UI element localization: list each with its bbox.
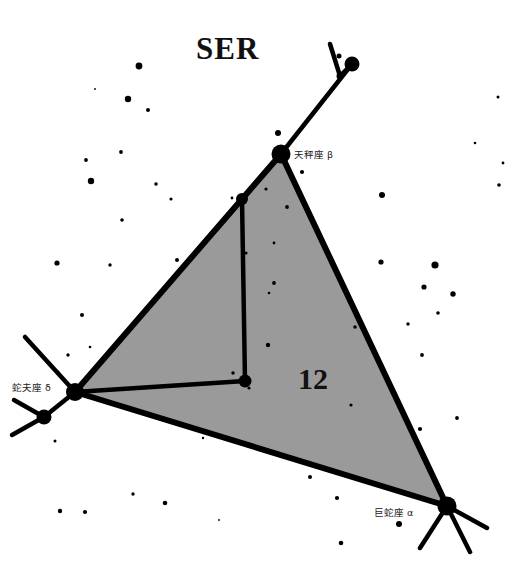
background-star: [244, 251, 247, 254]
background-star: [455, 416, 459, 420]
background-star: [497, 96, 500, 99]
background-star: [279, 454, 281, 456]
sky-map-svg: [0, 0, 513, 565]
background-star: [474, 142, 477, 145]
background-star: [247, 386, 250, 389]
background-star: [264, 187, 267, 190]
background-star: [353, 325, 357, 329]
background-star: [136, 63, 143, 70]
background-star: [378, 259, 383, 264]
constellation-star: [239, 375, 252, 388]
constellation-star: [236, 193, 248, 205]
background-star: [421, 284, 426, 289]
background-star: [88, 178, 94, 184]
background-star: [339, 541, 344, 546]
background-star: [308, 475, 312, 479]
background-star: [273, 242, 276, 245]
background-star: [125, 96, 131, 102]
constellation-star: [438, 497, 457, 516]
background-star: [231, 197, 234, 200]
background-star: [106, 401, 109, 404]
background-star: [431, 261, 438, 268]
star-label-ophiuchus-delta: 蛇夫座 δ: [12, 383, 51, 393]
background-star: [497, 183, 501, 187]
background-star: [89, 346, 92, 349]
background-star: [268, 292, 271, 295]
background-star: [218, 519, 220, 521]
background-star: [80, 313, 84, 317]
background-star: [146, 108, 150, 112]
background-star: [84, 158, 88, 162]
background-star: [275, 130, 281, 136]
boundary-polygon-shape: [75, 154, 447, 506]
background-star: [285, 205, 289, 209]
background-star: [379, 192, 385, 198]
background-star: [266, 343, 270, 347]
background-star: [450, 291, 455, 296]
region-number-label: 12: [298, 362, 328, 396]
background-star: [396, 521, 402, 527]
background-star: [57, 371, 60, 374]
constellation-boundary-polygon: [75, 154, 447, 506]
constellation-star: [345, 57, 360, 72]
constellation-star: [66, 383, 84, 401]
background-star: [66, 353, 69, 356]
background-star: [335, 496, 339, 500]
background-star: [131, 492, 134, 495]
constellation-star: [37, 410, 52, 425]
background-star: [502, 162, 505, 165]
background-star: [54, 440, 57, 443]
background-star: [300, 170, 304, 174]
background-star: [202, 437, 204, 439]
background-star: [120, 218, 124, 222]
background-star: [231, 371, 234, 374]
background-star: [83, 510, 87, 514]
background-star: [349, 403, 352, 406]
constellation-star: [272, 145, 291, 164]
background-star: [272, 281, 276, 285]
background-star: [58, 509, 62, 513]
star-label-libra-beta: 天秤座 β: [294, 150, 333, 160]
constellation-line: [242, 199, 245, 381]
constellation-star: [337, 73, 344, 80]
background-star: [406, 322, 409, 325]
background-star: [119, 150, 123, 154]
background-star: [54, 260, 59, 265]
constellation-title: SER: [196, 31, 259, 67]
background-star: [154, 182, 158, 186]
constellation-line: [330, 44, 340, 76]
background-star: [163, 501, 168, 506]
star-chart-canvas: SER 12 天秤座 β 蛇夫座 δ 巨蛇座 α: [0, 0, 513, 565]
star-label-serpens-alpha: 巨蛇座 α: [374, 508, 413, 518]
background-star: [94, 88, 96, 90]
constellation-star: [337, 54, 342, 59]
background-star: [169, 197, 172, 200]
background-star: [108, 263, 111, 266]
background-star: [418, 427, 422, 431]
background-star: [175, 258, 179, 262]
background-star: [420, 353, 424, 357]
background-star: [436, 311, 440, 315]
